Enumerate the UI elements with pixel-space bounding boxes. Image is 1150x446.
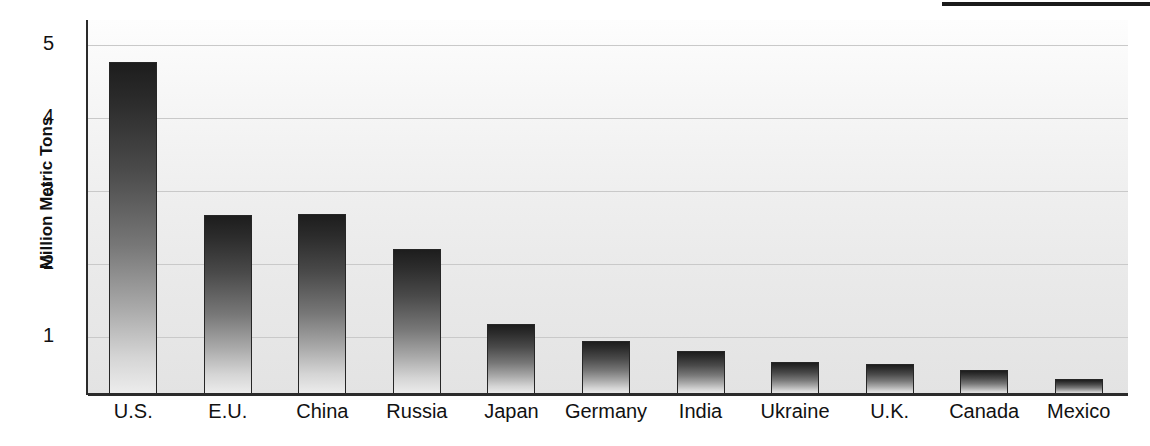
x-tick-label: Ukraine: [761, 400, 830, 423]
x-axis-line: [88, 393, 1128, 396]
x-tick-label: Mexico: [1047, 400, 1110, 423]
bar: [298, 214, 346, 395]
plot-area: [88, 20, 1128, 395]
bar: [487, 324, 535, 395]
x-tick-label: India: [679, 400, 722, 423]
x-tick-label: Japan: [484, 400, 539, 423]
y-tick-label: 1: [14, 324, 54, 347]
top-rule-decoration: [942, 2, 1150, 6]
bar: [204, 215, 252, 395]
gridline: [88, 191, 1128, 192]
gridline: [88, 118, 1128, 119]
bar: [109, 62, 157, 395]
bar: [960, 370, 1008, 395]
x-tick-label: Russia: [386, 400, 447, 423]
x-tick-label: China: [296, 400, 348, 423]
bar: [677, 351, 725, 395]
x-tick-label: Germany: [565, 400, 647, 423]
y-tick-label: 4: [14, 105, 54, 128]
bar: [771, 362, 819, 395]
y-tick-label: 3: [14, 178, 54, 201]
x-tick-label: Canada: [949, 400, 1019, 423]
bar: [393, 249, 441, 395]
y-tick-label: 5: [14, 32, 54, 55]
chart-page: Million Metric Tons 12345 U.S.E.U.ChinaR…: [0, 0, 1150, 446]
x-tick-label: E.U.: [208, 400, 247, 423]
x-tick-label: U.S.: [114, 400, 153, 423]
gridline: [88, 45, 1128, 46]
x-tick-label: U.K.: [870, 400, 909, 423]
y-tick-label: 2: [14, 251, 54, 274]
bar: [866, 364, 914, 395]
bar: [582, 341, 630, 395]
